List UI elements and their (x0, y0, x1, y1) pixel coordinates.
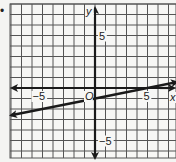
y-tick-label: 5 (99, 30, 105, 42)
y-tick-label: −5 (99, 135, 112, 147)
x-tick-label: 5 (144, 90, 150, 102)
origin-label: O (85, 90, 94, 102)
grid-lines (10, 4, 176, 158)
x-axis-label: x (169, 91, 176, 103)
grid-border (10, 4, 176, 158)
coordinate-plane: −555−5Oyx (0, 0, 176, 162)
x-tick-label: −5 (33, 90, 46, 102)
